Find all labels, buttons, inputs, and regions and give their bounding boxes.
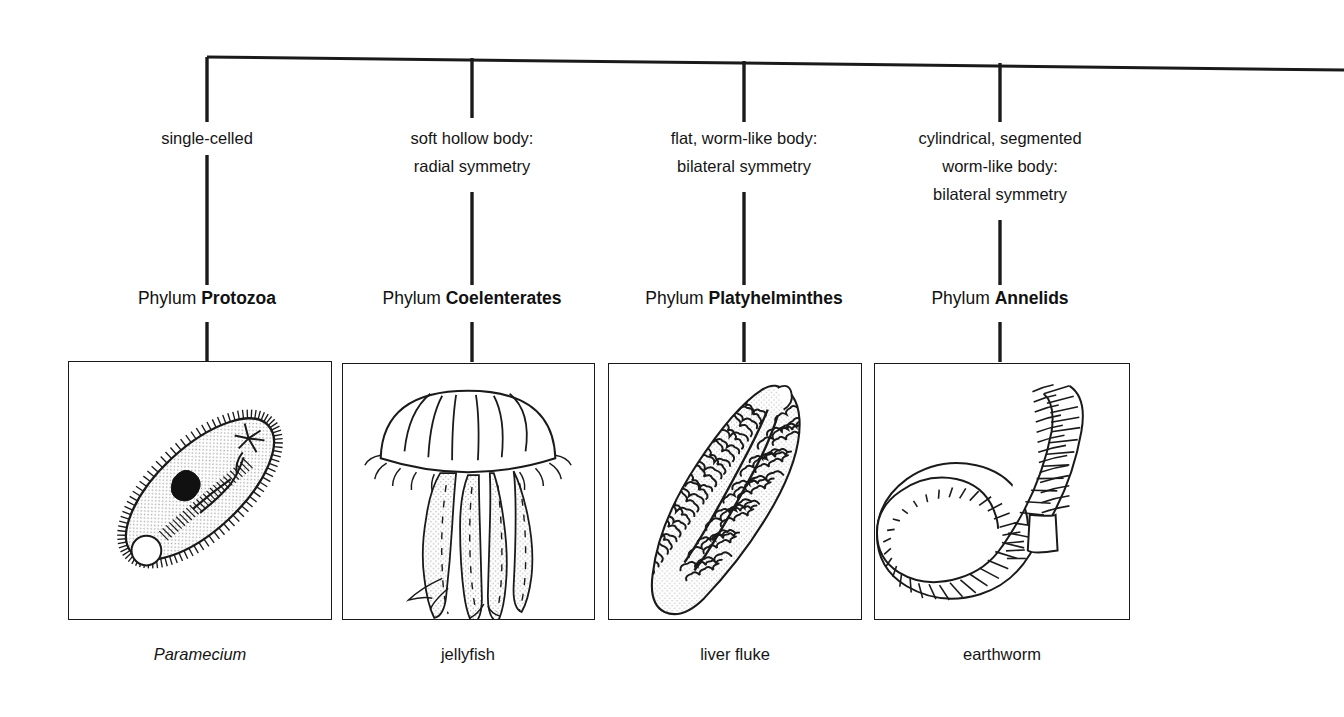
classification-diagram: single-celled soft hollow body: radial s…: [0, 0, 1344, 717]
phylum-name-protozoa: Protozoa: [201, 288, 276, 308]
trait-label-annelids: cylindrical, segmented worm-like body: b…: [850, 124, 1150, 208]
phylum-word-protozoa: Phylum: [138, 288, 196, 308]
phylum-word-coelenterates: Phylum: [383, 288, 441, 308]
specimen-panel-annelids: [874, 363, 1130, 620]
phylum-word-platyhelminthes: Phylum: [645, 288, 703, 308]
clitellum-band: [1028, 515, 1058, 553]
liver-fluke-icon: [609, 364, 861, 619]
trunk-horizontal-line: [207, 57, 1344, 70]
trailing-wisps: [408, 578, 499, 618]
phylum-name-platyhelminthes: Platyhelminthes: [709, 288, 843, 308]
trait-label-platyhelminthes: flat, worm-like body: bilateral symmetry: [594, 124, 894, 180]
phylum-name-annelids: Annelids: [995, 288, 1069, 308]
specimen-panel-coelenterates: [342, 363, 595, 620]
phylum-name-coelenterates: Coelenterates: [446, 288, 562, 308]
trait-label-coelenterates: soft hollow body: radial symmetry: [322, 124, 622, 180]
jellyfish-icon: [343, 364, 594, 619]
worm-body: [877, 386, 1091, 599]
phylum-label-annelids: Phylum Annelids: [840, 288, 1160, 309]
caption-coelenterates: jellyfish: [318, 645, 618, 664]
caption-text-annelids: earthworm: [963, 645, 1041, 663]
caption-text-protozoa: Paramecium: [154, 645, 247, 663]
specimen-panel-protozoa: [68, 361, 332, 620]
caption-text-coelenterates: jellyfish: [441, 645, 495, 663]
paramecium-icon: [69, 362, 331, 619]
trait-label-protozoa: single-celled: [57, 124, 357, 152]
specimen-panel-platyhelminthes: [608, 363, 862, 620]
earthworm-icon: [875, 364, 1129, 619]
caption-platyhelminthes: liver fluke: [585, 645, 885, 664]
caption-annelids: earthworm: [852, 645, 1152, 664]
phylum-word-annelids: Phylum: [931, 288, 989, 308]
caption-text-platyhelminthes: liver fluke: [700, 645, 770, 663]
caption-protozoa: Paramecium: [50, 645, 350, 664]
